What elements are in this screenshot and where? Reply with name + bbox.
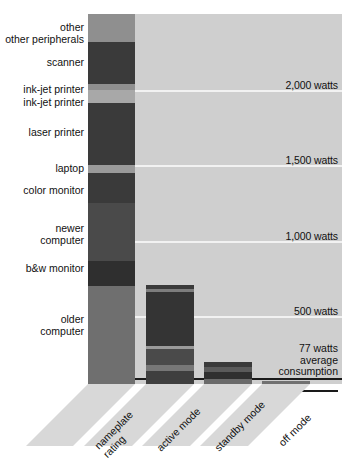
category-label-other-peripherals: other other peripherals (5, 22, 84, 45)
bar-standby-mode (204, 362, 252, 384)
segment-laser-printer (88, 103, 135, 164)
category-label-color-monitor: color monitor (23, 185, 84, 197)
bar-active-mode (146, 285, 194, 384)
y-axis-label-1500: 1,500 watts (285, 154, 338, 166)
segment-scanner (88, 42, 135, 84)
category-label-line-1: newer (40, 223, 84, 235)
y-axis-label-2000: 2,000 watts (285, 79, 338, 91)
stacked-bar-chart: 2,000 watts 1,500 watts 1,000 watts 500 … (0, 0, 342, 468)
segment-bw-monitor (88, 261, 135, 286)
category-label-laser-printer: laser printer (29, 127, 84, 139)
segment-color-monitor (88, 173, 135, 203)
average-consumption-line-1: 77 watts (278, 343, 338, 355)
average-consumption-annotation: 77 watts average consumption (278, 343, 338, 378)
category-label-scanner: scanner (47, 57, 84, 69)
y-axis-label-500: 500 watts (294, 305, 338, 317)
category-label-ink-jet-printer-1: ink-jet printer (23, 84, 84, 96)
x-tick-off-mode: off mode (276, 411, 313, 448)
segment-laptop (88, 165, 135, 173)
y-axis-label-1000: 1,000 watts (285, 230, 338, 242)
active-segment-5 (146, 349, 194, 365)
category-label-newer-computer: newer computer (40, 223, 84, 246)
category-label-line-1: other (5, 22, 84, 34)
average-consumption-line-3: consumption (278, 366, 338, 378)
bar-nameplate-rating (88, 14, 135, 384)
active-segment-7 (146, 371, 194, 385)
segment-ink-jet-printer-2 (88, 90, 135, 103)
segment-older-computer (88, 286, 135, 384)
category-label-line-2: computer (40, 326, 84, 338)
category-label-line-2: computer (40, 235, 84, 247)
active-segment-3 (146, 292, 194, 346)
segment-newer-computer (88, 203, 135, 261)
category-label-line-2: other peripherals (5, 34, 84, 46)
category-label-laptop: laptop (55, 163, 84, 175)
category-label-line-1: older (40, 314, 84, 326)
standby-segment-3 (204, 372, 252, 379)
category-label-bw-monitor: b&w monitor (26, 263, 84, 275)
category-label-older-computer: older computer (40, 314, 84, 337)
segment-other-peripherals (88, 14, 135, 42)
category-label-ink-jet-printer-2: ink-jet printer (23, 97, 84, 109)
